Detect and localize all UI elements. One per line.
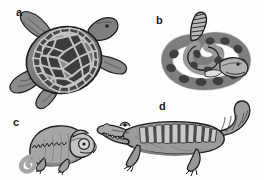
figure-label-b: b [156, 15, 163, 26]
chameleon-drawing [14, 115, 100, 177]
chameleon-pupil [82, 142, 85, 145]
figure-chameleon: c [14, 115, 100, 177]
figure-sea-turtle: a [6, 6, 130, 110]
crocodile-dorsal-scutes [139, 124, 216, 144]
turtle-eye [105, 24, 109, 28]
crocodile-drawing [96, 96, 264, 180]
sea-turtle-drawing [6, 6, 130, 110]
crocodile-nostril-bump [103, 124, 110, 126]
crocodile-eye [123, 123, 126, 126]
figure-rattlesnake: b [160, 10, 256, 88]
figure-crocodile: d [96, 96, 264, 180]
figure-label-c: c [13, 117, 19, 128]
reptile-illustration-plate: a [0, 0, 264, 180]
rattlesnake-drawing [160, 10, 256, 88]
snake-throat-patch [205, 70, 222, 77]
figure-label-a: a [16, 7, 22, 18]
figure-label-d: d [159, 101, 166, 112]
